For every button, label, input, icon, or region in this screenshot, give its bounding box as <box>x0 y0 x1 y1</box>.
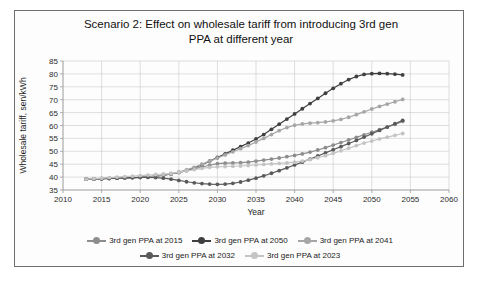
chart-title-line-1: Scenario 2: Effect on wholesale tariff f… <box>55 17 427 32</box>
data-point <box>231 161 235 165</box>
data-point <box>246 164 250 168</box>
data-point <box>115 175 119 179</box>
series-line <box>86 121 403 179</box>
x-tick-label: 2035 <box>247 195 265 204</box>
data-point <box>354 75 358 79</box>
legend-label: 3rd gen PPA at 2023 <box>267 251 340 260</box>
data-point <box>262 163 266 167</box>
x-tick-label: 2015 <box>93 195 111 204</box>
data-point <box>285 161 289 165</box>
data-point <box>270 157 274 161</box>
data-point <box>300 159 304 163</box>
data-point <box>192 168 196 172</box>
data-point <box>324 146 328 150</box>
data-point <box>131 174 135 178</box>
data-point <box>216 156 220 160</box>
y-tick-label: 45 <box>49 160 58 169</box>
data-point <box>300 122 304 126</box>
x-tick-label: 2010 <box>54 195 72 204</box>
y-tick-label: 55 <box>49 134 58 143</box>
data-point <box>401 132 405 136</box>
data-point <box>270 162 274 166</box>
data-point <box>239 180 243 184</box>
data-point <box>285 126 289 130</box>
data-point <box>362 73 366 77</box>
data-point <box>347 115 351 119</box>
data-point <box>177 170 181 174</box>
data-point <box>270 127 274 131</box>
data-point <box>393 100 397 104</box>
data-point <box>293 154 297 158</box>
data-point <box>277 162 281 166</box>
y-tick-label: 40 <box>49 173 58 182</box>
legend-row-1: 3rd gen PPA at 20153rd gen PPA at 20503r… <box>15 233 465 248</box>
data-point <box>239 164 243 168</box>
series-0 <box>84 119 404 181</box>
data-point <box>293 160 297 164</box>
data-point <box>378 129 382 133</box>
y-tick-label: 35 <box>49 186 58 195</box>
data-point <box>254 159 258 163</box>
data-point <box>401 98 405 102</box>
data-point <box>308 121 312 125</box>
legend-item[interactable]: 3rd gen PPA at 2023 <box>245 251 340 260</box>
data-point <box>231 150 235 154</box>
legend-item[interactable]: 3rd gen PPA at 2032 <box>140 251 235 260</box>
data-point <box>354 113 358 117</box>
data-point <box>246 144 250 148</box>
data-point <box>331 148 335 152</box>
data-point <box>223 153 227 157</box>
data-point <box>277 129 281 133</box>
data-point <box>393 72 397 76</box>
data-point <box>185 180 189 184</box>
legend-marker-icon <box>298 240 317 242</box>
data-point <box>347 142 351 146</box>
legend-item[interactable]: 3rd gen PPA at 2050 <box>192 236 287 245</box>
data-point <box>161 176 165 180</box>
data-point <box>216 165 220 169</box>
legend-marker-icon <box>87 240 106 242</box>
legend-label: 3rd gen PPA at 2032 <box>162 251 235 260</box>
legend-row-2: 3rd gen PPA at 20323rd gen PPA at 2023 <box>15 248 465 263</box>
data-point <box>339 117 343 121</box>
data-point <box>223 182 227 186</box>
data-point <box>331 86 335 90</box>
x-tick-label: 2040 <box>286 195 304 204</box>
data-point <box>339 82 343 86</box>
chart-title: Scenario 2: Effect on wholesale tariff f… <box>55 17 427 47</box>
data-point <box>347 138 351 142</box>
data-point <box>324 91 328 95</box>
data-point <box>378 71 382 75</box>
series-1 <box>84 71 404 181</box>
data-point <box>216 182 220 186</box>
data-point <box>393 122 397 126</box>
data-point <box>231 181 235 185</box>
data-point <box>385 125 389 129</box>
x-tick-label: 2055 <box>402 195 420 204</box>
data-point <box>378 137 382 141</box>
data-point <box>231 164 235 168</box>
legend-marker-icon <box>192 240 211 242</box>
data-point <box>262 158 266 162</box>
data-point <box>123 175 127 179</box>
series-line <box>86 73 403 179</box>
data-point <box>308 158 312 162</box>
data-point <box>316 97 320 101</box>
data-point <box>107 176 111 180</box>
data-point <box>293 123 297 127</box>
data-point <box>339 149 343 153</box>
data-point <box>254 140 258 144</box>
data-point <box>161 172 165 176</box>
data-point <box>316 156 320 160</box>
data-point <box>362 135 366 139</box>
data-point <box>339 141 343 145</box>
legend-item[interactable]: 3rd gen PPA at 2015 <box>87 236 182 245</box>
data-point <box>362 141 366 145</box>
legend-marker-icon <box>245 255 264 257</box>
data-point <box>154 173 158 177</box>
data-point <box>223 161 227 165</box>
legend-item[interactable]: 3rd gen PPA at 2041 <box>298 236 393 245</box>
line-chart: 3540455055606570758085201020152020202520… <box>15 55 465 220</box>
data-point <box>331 143 335 147</box>
data-point <box>239 161 243 165</box>
